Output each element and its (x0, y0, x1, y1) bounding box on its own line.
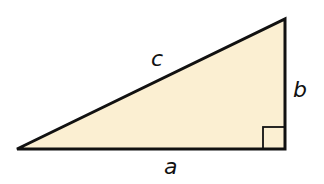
label-horizontal-leg: a (164, 154, 177, 179)
triangle-shape (17, 19, 285, 149)
right-triangle-diagram: c b a (0, 0, 324, 184)
label-vertical-leg: b (293, 77, 307, 102)
triangle-figure: c b a (0, 0, 324, 184)
label-hypotenuse: c (151, 46, 163, 71)
